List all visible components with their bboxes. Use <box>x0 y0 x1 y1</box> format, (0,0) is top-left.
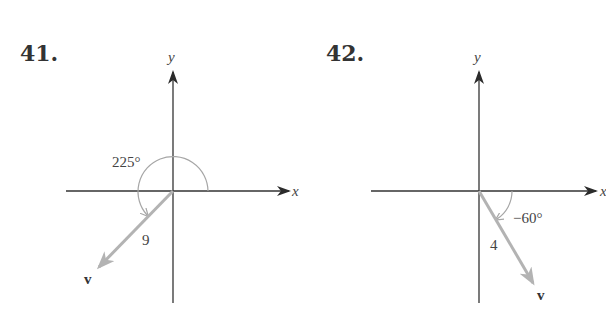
figure-number: 42. <box>326 40 364 66</box>
magnitude-label: 9 <box>142 232 150 248</box>
figure-number: 41. <box>20 40 58 66</box>
vector-v <box>99 191 173 267</box>
vector-diagrams: 41. y x 225° 9 v 42. y x −60° 4 v <box>0 0 606 320</box>
x-axis-label: x <box>599 183 606 199</box>
figure-41: 41. y x 225° 9 v <box>20 40 299 303</box>
angle-label: −60° <box>513 210 542 226</box>
y-axis-label: y <box>166 49 175 65</box>
angle-label: 225° <box>112 154 141 170</box>
angle-arc <box>497 191 512 219</box>
y-axis-label: y <box>472 49 481 65</box>
vector-v <box>479 191 533 283</box>
magnitude-label: 4 <box>490 237 498 253</box>
figure-42: 42. y x −60° 4 v <box>326 40 606 303</box>
vector-label: v <box>84 271 92 287</box>
x-axis-label: x <box>291 183 299 199</box>
vector-label: v <box>537 287 545 303</box>
